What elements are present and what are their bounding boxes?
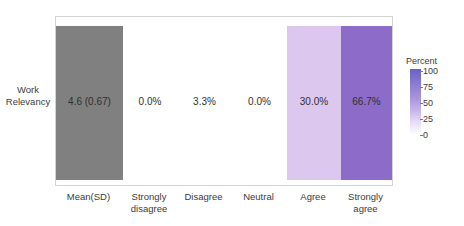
legend-tick-labels: 100 75 50 25 0 (423, 69, 449, 135)
x-tick-mean-sd-line-1: Mean(SD) (55, 191, 122, 203)
cell-value-strongly-disagree: 0.0% (139, 96, 162, 107)
legend-colorbar-gradient (410, 69, 421, 135)
x-tick-disagree: Disagree (176, 191, 231, 223)
heatmap-row: 4.6 (0.67) 0.0% 3.3% 0.0% 30.0% 66.7% (56, 17, 392, 185)
legend-tick-0: 0 (423, 131, 428, 140)
plot-panel: 4.6 (0.67) 0.0% 3.3% 0.0% 30.0% 66.7% (55, 16, 393, 186)
x-tick-disagree-line-1: Disagree (176, 191, 231, 203)
x-tick-strongly-agree: Strongly agree (340, 191, 391, 223)
heatmap-cell-agree[interactable]: 30.0% (287, 17, 341, 185)
x-tick-strongly-disagree-line-1: Strongly (122, 191, 176, 203)
legend-tick-25: 25 (423, 115, 433, 124)
chart-figure: Work Relevancy 4.6 (0.67) 0.0% 3.3% 0.0% (0, 0, 464, 226)
legend-title: Percent (406, 56, 462, 66)
heatmap-cell-strongly-disagree[interactable]: 0.0% (123, 17, 177, 185)
legend-tick-100: 100 (423, 67, 438, 76)
heatmap-cell-neutral[interactable]: 0.0% (232, 17, 287, 185)
x-tick-neutral: Neutral (231, 191, 286, 223)
cell-value-neutral: 0.0% (248, 96, 271, 107)
x-tick-mean-sd: Mean(SD) (55, 191, 122, 223)
heatmap-cell-mean-sd[interactable]: 4.6 (0.67) (56, 17, 123, 185)
cell-value-mean-sd: 4.6 (0.67) (68, 96, 111, 107)
x-tick-strongly-disagree: Strongly disagree (122, 191, 176, 223)
x-tick-strongly-agree-line-1: Strongly (340, 191, 391, 203)
x-tick-strongly-disagree-line-2: disagree (122, 203, 176, 215)
x-axis-tick-labels: Mean(SD) Strongly disagree Disagree Neut… (55, 191, 393, 223)
legend-tick-50: 50 (423, 99, 433, 108)
x-tick-neutral-line-1: Neutral (231, 191, 286, 203)
y-axis-label: Work Relevancy (2, 84, 54, 107)
y-axis-label-line-2: Relevancy (2, 96, 54, 108)
cell-value-strongly-agree: 66.7% (352, 96, 380, 107)
y-axis-label-line-1: Work (2, 84, 54, 96)
heatmap-cell-strongly-agree[interactable]: 66.7% (341, 17, 392, 185)
x-tick-agree: Agree (286, 191, 340, 223)
legend-tick-75: 75 (423, 83, 433, 92)
legend: Percent 100 75 50 25 0 (404, 56, 462, 152)
cell-value-disagree: 3.3% (193, 96, 216, 107)
heatmap-cell-disagree[interactable]: 3.3% (177, 17, 232, 185)
cell-value-agree: 30.0% (300, 96, 328, 107)
legend-body: 100 75 50 25 0 (404, 69, 462, 135)
x-tick-strongly-agree-line-2: agree (340, 203, 391, 215)
x-tick-agree-line-1: Agree (286, 191, 340, 203)
